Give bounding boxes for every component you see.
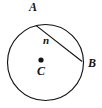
geometry-figure: A B C n xyxy=(0,0,102,108)
label-point-a: A xyxy=(29,1,37,13)
label-point-b: B xyxy=(88,57,96,69)
circle-diagram-svg xyxy=(0,0,102,108)
center-point-dot xyxy=(38,57,43,62)
label-center-c: C xyxy=(37,65,45,77)
label-chord-n: n xyxy=(43,35,49,46)
